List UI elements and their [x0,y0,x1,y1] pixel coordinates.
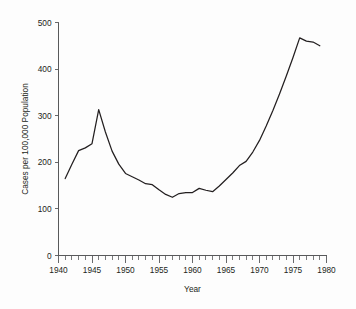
y-axis-tick-labels: 0100200300400500 [38,18,52,261]
y-axis-tick-marks [55,23,59,256]
x-axis-title: Year [184,284,201,294]
y-axis-tick-label: 300 [38,111,52,121]
chart-figure: 0100200300400500 19401945195019551960196… [0,0,356,309]
y-axis-tick-label: 100 [38,204,52,214]
x-axis-tick-label: 1940 [49,265,68,275]
data-series-line [65,38,320,197]
x-axis-tick-labels: 194019451950195519601965197019751980 [49,265,336,275]
x-axis-tick-label: 1970 [250,265,269,275]
y-axis-tick-label: 200 [38,157,52,167]
x-axis-tick-label: 1960 [183,265,202,275]
x-axis-tick-label: 1980 [317,265,336,275]
x-axis-tick-label: 1975 [284,265,303,275]
x-axis-tick-label: 1950 [116,265,135,275]
y-axis-tick-label: 400 [38,64,52,74]
line-chart: 0100200300400500 19401945195019551960196… [0,0,356,309]
x-axis-tick-label: 1955 [150,265,169,275]
x-axis-tick-label: 1965 [217,265,236,275]
y-axis-tick-label: 0 [47,251,52,261]
y-axis-title: Cases per 100,000 Population [20,83,30,195]
y-axis-tick-label: 500 [38,18,52,28]
x-axis-tick-label: 1945 [83,265,102,275]
axis-lines [59,23,327,256]
